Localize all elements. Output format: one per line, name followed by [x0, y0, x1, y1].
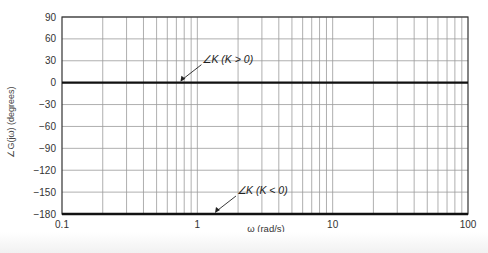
x-tick-label: 0.1 — [55, 219, 69, 230]
y-tick-label: 60 — [45, 33, 57, 44]
arrowhead-icon — [180, 76, 185, 82]
y-tick-label: −120 — [33, 165, 56, 176]
x-tick-label: 100 — [460, 219, 477, 230]
annotation-label: ∠K (K > 0) — [202, 53, 253, 65]
y-tick-label: −60 — [39, 121, 56, 132]
annotations: ∠K (K > 0)∠K (K < 0) — [180, 53, 287, 213]
y-tick-label: 30 — [45, 55, 57, 66]
annotation-arrow — [218, 196, 236, 210]
y-tick-label: 0 — [50, 77, 56, 88]
y-tick-label: −150 — [33, 187, 56, 198]
y-tick-label: −90 — [39, 143, 56, 154]
x-tick-label: 1 — [195, 219, 201, 230]
annotation-label: ∠K (K < 0) — [237, 184, 288, 196]
x-tick-label: 10 — [327, 219, 339, 230]
y-axis-label: ∠G(jω) (degrees) — [6, 86, 16, 157]
phase-plot: 9060300−30−60−90−120−150−180 0.1110100 ∠… — [0, 0, 488, 253]
y-tick-label: −30 — [39, 99, 56, 110]
y-tick-label: 90 — [45, 12, 57, 23]
arrowhead-icon — [215, 207, 220, 213]
annotation-arrow — [183, 65, 201, 79]
y-tick-label: −180 — [33, 209, 56, 220]
page-edge — [0, 232, 488, 253]
y-tick-labels: 9060300−30−60−90−120−150−180 — [33, 12, 56, 220]
